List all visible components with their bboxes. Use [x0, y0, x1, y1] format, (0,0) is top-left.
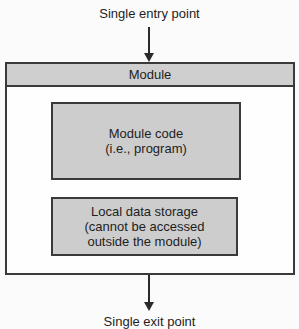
module-code-line1: Module code [105, 126, 187, 141]
exit-point-label: Single exit point [0, 314, 299, 329]
module-code-box: Module code (i.e., program) [51, 102, 241, 180]
entry-point-label: Single entry point [0, 6, 299, 21]
entry-arrow-line [148, 27, 150, 54]
exit-arrowhead-icon [144, 302, 154, 311]
entry-arrowhead-icon [144, 53, 154, 62]
exit-arrow-line [148, 275, 150, 303]
module-code-line2: (i.e., program) [105, 141, 187, 156]
local-data-line2: (cannot be accessed [85, 219, 205, 234]
local-data-storage-box: Local data storage (cannot be accessed o… [51, 197, 238, 256]
module-header: Module [7, 64, 293, 87]
local-data-line1: Local data storage [85, 204, 205, 219]
module-box: Module Module code (i.e., program) Local… [5, 62, 295, 275]
local-data-line3: outside the module) [85, 234, 205, 249]
